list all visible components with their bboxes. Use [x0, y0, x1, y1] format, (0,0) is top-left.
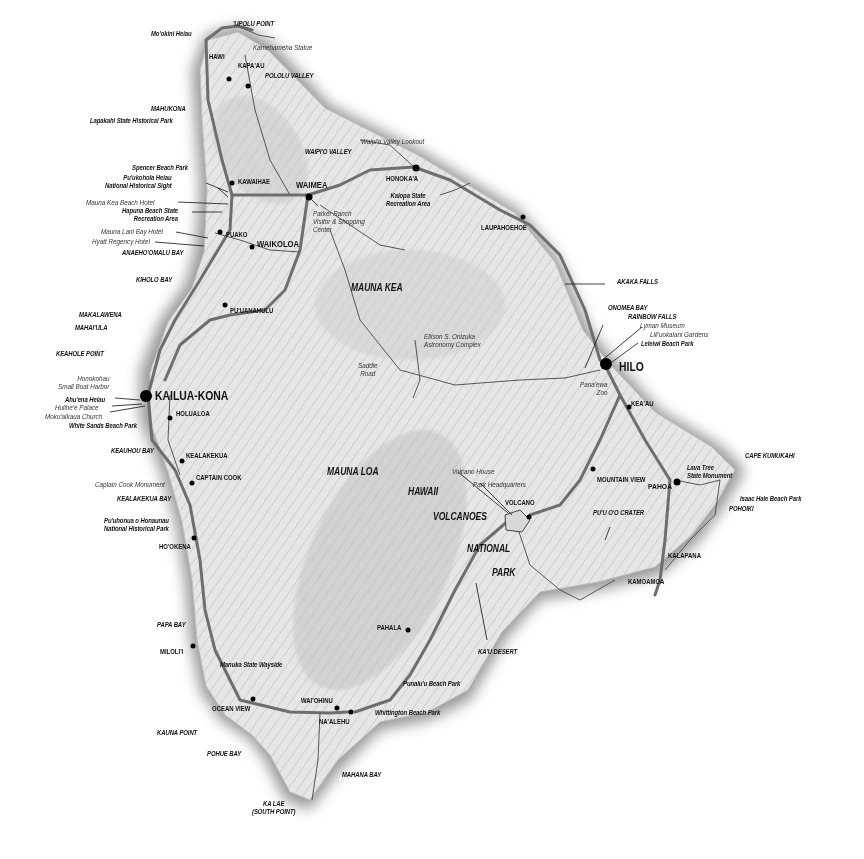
label-leleiwi: Leleiwi Beach Park: [641, 340, 693, 347]
label-kau-desert: KA'U DESERT: [478, 648, 517, 655]
dot-milolii: [191, 644, 196, 649]
label-hookena: HO'OKENA: [159, 543, 191, 550]
dot-pahoa: [674, 479, 681, 486]
label-mauna-loa: MAUNA LOA: [327, 467, 379, 477]
label-keauhou: KEAUHOU BAY: [111, 447, 154, 454]
label-manuka: Manuka State Wayside: [220, 661, 282, 668]
label-rainbow: RAINBOW FALLS: [628, 313, 676, 320]
label-hapuna: Hapuna Beach State Recreation Area: [122, 207, 178, 223]
dot-kapaau: [246, 84, 251, 89]
label-ahuena: Ahu'ena Heiau: [65, 396, 105, 403]
label-kalopa: Kalopa State Recreation Area: [386, 192, 430, 208]
label-mahukona: MAHUKONA: [151, 105, 186, 112]
dot-kawaihae: [230, 181, 235, 186]
label-mahana-bay: MAHANA BAY: [342, 771, 381, 778]
label-puukohola: Pu'ukohola Heiau National Historical Sig…: [105, 174, 172, 190]
label-mokuaikaua: Moku'aikaua Church: [45, 413, 102, 420]
label-lava-tree: Lava Tree State Monument: [687, 464, 732, 480]
label-pohoiki: POHOIKI: [729, 505, 754, 512]
label-national: NATIONAL: [467, 544, 510, 554]
hawaii-island-map: 'UPOLU POINT Mo'okini Heiau Kamehameha S…: [0, 0, 864, 859]
dot-kailua-kona: [140, 390, 152, 402]
dot-captain-cook: [190, 481, 195, 486]
label-waimea: WAIMEA: [296, 181, 327, 190]
label-punaluu: Punalu'u Beach Park: [403, 680, 460, 687]
label-honokaa: HONOKA'A: [386, 175, 418, 182]
label-kamoamoa: KAMOAMOA: [628, 578, 664, 585]
label-waipio-lookout: Waipi'o Valley Lookout: [361, 138, 424, 145]
label-kauna-point: KAUNA POINT: [157, 729, 197, 736]
map-base-layer: [0, 0, 864, 859]
label-pololu-valley: POLOLU VALLEY: [265, 72, 313, 79]
dot-hookena: [192, 536, 197, 541]
label-isaac-hale: Isaac Hale Beach Park: [740, 495, 801, 502]
label-kapaau: KAPA'AU: [238, 62, 264, 69]
dot-puuanahulu: [223, 303, 228, 308]
label-parker-ranch: Parker Ranch Visitor & Shopping Center: [313, 210, 365, 234]
label-panaewa: Pana'ewa Zoo: [580, 381, 607, 397]
label-ocean-view: OCEAN VIEW: [212, 705, 250, 712]
label-upolu-point: 'UPOLU POINT: [233, 20, 274, 27]
label-holualoa: HOLUALOA: [176, 410, 210, 417]
label-pahoa: PAHOA: [648, 483, 672, 491]
label-kawaihae: KAWAIHAE: [238, 178, 270, 185]
label-milolii: MILOLI'I: [160, 648, 183, 655]
dot-waimea: [306, 194, 313, 201]
label-anaehoomalu: ANAEHO'OMALU BAY: [122, 249, 183, 256]
label-white-sands: White Sands Beach Park: [69, 422, 137, 429]
label-hyatt: Hyatt Regency Hotel: [92, 238, 150, 245]
label-kealakekua: KEALAKEKUA: [186, 452, 228, 459]
label-volcanoes: VOLCANOES: [433, 512, 487, 522]
label-puako: PUAKO: [226, 231, 247, 238]
label-kamehameha-statue: Kamehameha Statue: [253, 44, 312, 51]
label-pahala: PAHALA: [377, 624, 401, 631]
label-hawaii: HAWAII: [408, 487, 438, 497]
label-captain-cook: CAPTAIN COOK: [196, 474, 242, 481]
dot-mountain-view: [591, 467, 596, 472]
label-puuoo: PU'U O'O CRATER: [593, 509, 644, 516]
label-puuhonua: Pu'uhonua o Honaunau National Historical…: [104, 517, 169, 533]
dot-hawi: [227, 77, 232, 82]
dot-waiohinu: [335, 706, 340, 711]
label-kealakekua-bay: KEALAKEKUA BAY: [117, 495, 171, 502]
label-kalapana: KALAPANA: [668, 552, 701, 559]
dot-honokaa: [413, 165, 420, 172]
label-hilo: HILO: [619, 360, 644, 373]
label-kailua-kona: KAILUA-KONA: [155, 389, 228, 402]
label-mauna-kea-hotel: Mauna Kea Beach Hotel: [86, 199, 154, 206]
label-mauna-kea: MAUNA KEA: [351, 283, 403, 293]
label-kiholo: KIHOLO BAY: [136, 276, 172, 283]
dot-waikoloa: [250, 245, 255, 250]
dot-laupahoehoe: [521, 215, 526, 220]
label-waipio-valley: WAIPI'O VALLEY: [305, 148, 351, 155]
label-mauna-lani: Mauna Lani Bay Hotel: [101, 228, 163, 235]
dot-hilo: [600, 358, 612, 370]
label-naalehu: NA'ALEHU: [319, 718, 350, 725]
label-keaau: KEA'AU: [631, 400, 654, 407]
dot-pahala: [406, 628, 411, 633]
label-hulihee: Hulihe'e Palace: [55, 404, 99, 411]
dot-holualoa: [168, 416, 173, 421]
label-ka-lae: KA LAE (SOUTH POINT): [252, 800, 296, 816]
label-volcano: VOLCANO: [505, 499, 535, 506]
label-laupahoehoe: LAUPAHOEHOE: [481, 224, 527, 231]
dot-naalehu: [349, 710, 354, 715]
dot-kealakekua: [180, 459, 185, 464]
label-lyman: Lyman Museum: [640, 322, 685, 329]
label-park: PARK: [492, 568, 515, 578]
label-whittington: Whittington Beach Park: [375, 709, 440, 716]
label-liliuokalani: Lili'uokalani Gardens: [650, 331, 708, 338]
label-waiohinu: WAI'OHINU: [301, 697, 333, 704]
label-cape-kumukahi: CAPE KUMUKAHI: [745, 452, 794, 459]
label-mahaiula: MAHAI'ULA: [75, 324, 107, 331]
label-saddle-road: Saddle Road: [358, 362, 378, 378]
label-volcano-house: Volcano House: [452, 468, 494, 475]
label-keahole: KEAHOLE POINT: [56, 350, 104, 357]
dot-puako: [218, 230, 223, 235]
label-onizuka: Ellison S. Onizuka Astronomy Complex: [424, 333, 481, 349]
label-akaka: AKAKA FALLS: [617, 278, 658, 285]
label-honokohau: Honokohau Small Boat Harbor: [58, 375, 109, 391]
label-makalawena: MAKALAWENA: [79, 311, 122, 318]
label-lapakahi: Lapakahi State Historical Park: [90, 117, 173, 124]
label-onomea: ONOMEA BAY: [608, 304, 647, 311]
